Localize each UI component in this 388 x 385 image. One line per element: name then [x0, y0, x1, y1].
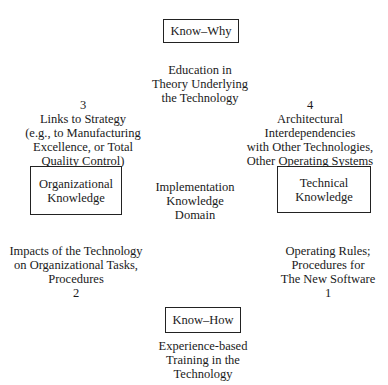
center-line: Knowledge: [140, 194, 250, 208]
bottom-line: Technology: [123, 367, 283, 381]
quadrant-3: 3 Links to Strategy (e.g., to Manufactur…: [0, 98, 166, 168]
box-line: Technical: [300, 176, 348, 190]
quadrant-line: Impacts of the Technology: [0, 244, 152, 258]
box-line: Knowledge: [47, 191, 105, 205]
quadrant-line: Procedures for: [268, 258, 388, 272]
technical-knowledge-box: Technical Knowledge: [277, 166, 371, 213]
quadrant-line: The New Software: [268, 272, 388, 286]
bottom-line: Experience-based: [123, 339, 283, 353]
quadrant-4: 4 Architectural Interdependencies with O…: [232, 98, 388, 168]
quadrant-line: Interdependencies: [232, 126, 388, 140]
organizational-knowledge-box: Organizational Knowledge: [30, 166, 122, 215]
quadrant-line: Links to Strategy: [0, 112, 166, 126]
quadrant-number: 4: [232, 98, 388, 112]
box-line: Knowledge: [295, 190, 353, 204]
know-how-box: Know–How: [165, 307, 241, 333]
quadrant-line: (e.g., to Manufacturing: [0, 126, 166, 140]
center-line: Domain: [140, 208, 250, 222]
know-how-label: Know–How: [172, 313, 233, 327]
quadrant-2: Impacts of the Technology on Organizatio…: [0, 244, 152, 300]
bottom-description: Experience-based Training in the Technol…: [123, 339, 283, 381]
center-line: Implementation: [140, 180, 250, 194]
know-why-box: Know–Why: [163, 19, 239, 43]
box-line: Organizational: [39, 177, 113, 191]
top-line: Theory Underlying: [120, 77, 280, 91]
quadrant-number: 2: [0, 286, 152, 300]
know-why-label: Know–Why: [170, 24, 231, 38]
quadrant-line: on Organizational Tasks,: [0, 258, 152, 272]
top-line: Education in: [120, 63, 280, 77]
center-label: Implementation Knowledge Domain: [140, 180, 250, 222]
quadrant-line: Excellence, or Total: [0, 140, 166, 154]
quadrant-1: Operating Rules; Procedures for The New …: [268, 244, 388, 300]
quadrant-number: 1: [268, 286, 388, 300]
quadrant-number: 3: [0, 98, 166, 112]
quadrant-line: with Other Technologies,: [232, 140, 388, 154]
quadrant-line: Architectural: [232, 112, 388, 126]
quadrant-line: Operating Rules;: [268, 244, 388, 258]
bottom-line: Training in the: [123, 353, 283, 367]
quadrant-line: Procedures: [0, 272, 152, 286]
